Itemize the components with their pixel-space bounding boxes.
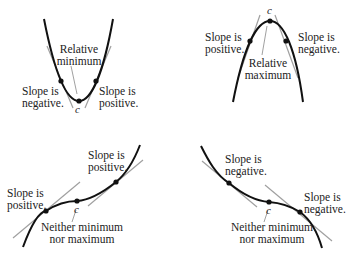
- label-slope-negative-right: Slope is negative.: [304, 191, 346, 215]
- label-line: Slope is: [304, 191, 346, 203]
- label-line: negative.: [225, 165, 267, 177]
- label-line: negative.: [298, 43, 340, 55]
- label-line: nor maximum: [40, 233, 124, 245]
- label-line: negative.: [304, 203, 346, 215]
- label-line: Neither minimum: [230, 221, 314, 233]
- label-line: Relative: [244, 57, 292, 69]
- pointer-line: [71, 66, 77, 94]
- critical-points-diagram: Relative minimum Slope is negative. Slop…: [0, 0, 354, 262]
- label-line: positive.: [7, 199, 46, 211]
- label-line: positive.: [205, 43, 244, 55]
- label-line: positive.: [88, 161, 127, 173]
- label-c: c: [75, 103, 80, 115]
- label-line: minimum: [55, 55, 103, 67]
- label-line: positive.: [99, 97, 138, 109]
- label-slope-positive-left: Slope is positive.: [7, 187, 46, 211]
- label-slope-positive: Slope is positive.: [205, 31, 244, 55]
- label-slope-negative: Slope is negative.: [298, 31, 340, 55]
- label-line: Slope is: [88, 149, 127, 161]
- point-right: [297, 209, 302, 214]
- label-line: maximum: [244, 69, 292, 81]
- label-relative-minimum: Relative minimum: [55, 43, 103, 67]
- label-line: Slope is: [205, 31, 244, 43]
- pointer-line: [262, 26, 267, 55]
- label-line: Slope is: [225, 153, 267, 165]
- label-slope-negative-left: Slope is negative.: [225, 153, 267, 177]
- label-line: Slope is: [99, 85, 138, 97]
- label-line: Slope is: [7, 187, 46, 199]
- point-left: [226, 180, 231, 185]
- label-line: Neither minimum: [40, 221, 124, 233]
- label-c: c: [266, 204, 271, 216]
- label-slope-positive-right: Slope is positive.: [88, 149, 127, 173]
- label-slope-negative: Slope is negative.: [22, 85, 64, 109]
- label-line: Relative: [55, 43, 103, 55]
- label-slope-positive: Slope is positive.: [99, 85, 138, 109]
- point-right: [283, 38, 288, 43]
- point-left: [247, 38, 252, 43]
- point-c: [267, 18, 272, 23]
- label-c: c: [74, 203, 79, 215]
- label-line: nor maximum: [230, 233, 314, 245]
- point-right: [93, 78, 98, 83]
- label-relative-maximum: Relative maximum: [244, 57, 292, 81]
- label-c: c: [267, 4, 272, 16]
- point-right: [113, 179, 118, 184]
- label-neither: Neither minimum nor maximum: [230, 221, 314, 245]
- point-left: [58, 78, 63, 83]
- label-line: negative.: [22, 97, 64, 109]
- label-neither: Neither minimum nor maximum: [40, 221, 124, 245]
- label-line: Slope is: [298, 31, 340, 43]
- label-line: Slope is: [22, 85, 64, 97]
